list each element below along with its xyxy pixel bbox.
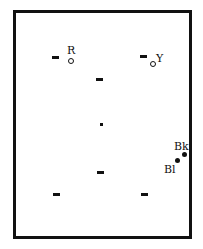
marker-r-open-circle-icon: [68, 58, 74, 64]
center-dot: [100, 123, 103, 126]
label-bk: Bk: [174, 141, 189, 152]
label-y: Y: [156, 53, 163, 64]
dash-marker-upper-center: [96, 78, 103, 81]
dash-marker-top-right: [140, 55, 147, 58]
label-r: R: [67, 45, 75, 56]
label-bl: Bl: [164, 164, 176, 175]
dash-marker-lower-center: [97, 171, 104, 174]
dash-marker-top-left: [52, 56, 59, 59]
dash-marker-bottom-left: [53, 193, 60, 196]
dash-marker-bottom-right: [141, 193, 148, 196]
